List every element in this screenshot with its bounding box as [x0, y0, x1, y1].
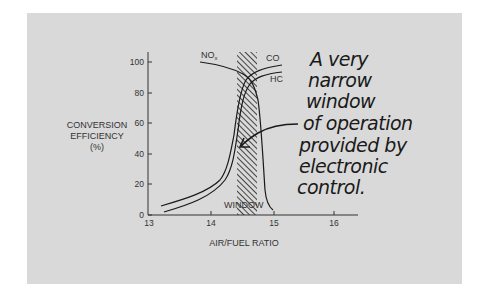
y-axis-title-line2: EFFICIENCY: [70, 131, 124, 141]
note-line: A very: [308, 48, 369, 70]
handwritten-note: A very narrow window of operation provid…: [297, 48, 413, 198]
x-axis-title: AIR/FUEL RATIO: [209, 238, 279, 248]
y-tick-label: 60: [135, 118, 145, 128]
x-tick-label: 14: [206, 218, 216, 228]
y-tick-label: 20: [135, 179, 145, 189]
y-ticks: 0 20 40 60 80 100: [130, 57, 152, 220]
y-tick-label: 80: [135, 88, 145, 98]
nox-label: NOx: [201, 50, 218, 61]
hc-label: HC: [270, 74, 283, 84]
hc-curve: [164, 72, 282, 212]
x-tick-label: 15: [269, 218, 279, 228]
note-line: provided by: [298, 134, 408, 156]
note-line: control.: [297, 176, 365, 198]
x-tick-label: 16: [329, 218, 339, 228]
co-label: CO: [266, 53, 280, 63]
window-label: WINDOW: [224, 200, 264, 210]
note-line: window: [306, 90, 376, 112]
y-axis-title-line3: (%): [90, 142, 104, 152]
note-line: of operation: [303, 112, 413, 134]
note-line: electronic: [299, 155, 389, 177]
nox-curve: [200, 62, 273, 210]
chart: 0 20 40 60 80 100 13 14 15 16 AIR/FUEL R…: [0, 0, 485, 299]
note-line: narrow: [308, 69, 372, 91]
y-tick-label: 40: [135, 149, 145, 159]
y-tick-label: 100: [130, 57, 144, 67]
x-tick-label: 13: [144, 218, 154, 228]
y-axis-title-line1: CONVERSION: [67, 120, 128, 130]
